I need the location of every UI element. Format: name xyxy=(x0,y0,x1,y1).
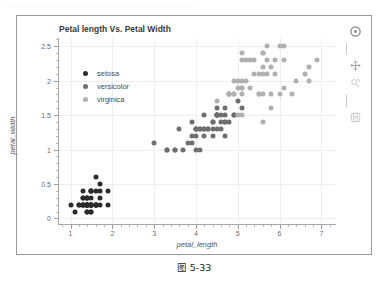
gridline-vertical xyxy=(238,38,239,224)
y-tick-minor xyxy=(56,60,58,61)
y-tick-minor xyxy=(56,191,58,192)
toolbar-separator xyxy=(346,95,347,107)
x-tick-minor xyxy=(288,225,289,227)
scatter-point-setosa xyxy=(93,175,98,180)
x-tick-minor xyxy=(229,225,230,227)
gridline-vertical xyxy=(154,38,155,224)
legend-item-virginica[interactable]: virginica xyxy=(83,93,129,106)
y-tick xyxy=(54,115,58,116)
scatter-point-versicolor xyxy=(198,126,203,131)
y-tick-minor xyxy=(56,143,58,144)
x-tick-minor xyxy=(96,225,97,227)
x-tick-minor xyxy=(313,225,314,227)
x-tick-minor xyxy=(171,225,172,227)
scatter-point-versicolor xyxy=(189,120,194,125)
y-tick-minor xyxy=(56,94,58,95)
x-axis-label: petal_length xyxy=(58,240,336,249)
legend-item-setosa[interactable]: setosa xyxy=(83,67,129,80)
bokeh-scatter-plot[interactable]: Petal length Vs. Petal Width 123456700.5… xyxy=(17,16,371,254)
scatter-point-virginica xyxy=(244,78,249,83)
scatter-point-versicolor xyxy=(235,99,240,104)
legend-item-versicolor[interactable]: versicolor xyxy=(83,80,129,93)
x-tick-minor xyxy=(163,225,164,227)
scatter-point-versicolor xyxy=(223,133,228,138)
scatter-point-setosa xyxy=(106,188,111,193)
plot-data-frame[interactable] xyxy=(58,38,336,224)
x-tick-minor xyxy=(271,225,272,227)
scatter-point-setosa xyxy=(97,195,102,200)
scatter-point-versicolor xyxy=(227,120,232,125)
chart-legend: setosaversicolorvirginica xyxy=(83,67,129,106)
x-tick-label: 1 xyxy=(69,230,73,237)
scatter-point-versicolor xyxy=(152,140,157,145)
x-tick-minor xyxy=(305,225,306,227)
scatter-point-versicolor xyxy=(193,133,198,138)
pan-icon[interactable] xyxy=(348,58,362,72)
scatter-point-versicolor xyxy=(210,120,215,125)
gridline-horizontal xyxy=(58,115,336,116)
y-tick-label: 1 xyxy=(17,146,51,153)
scatter-point-virginica xyxy=(281,58,286,63)
scatter-point-setosa xyxy=(85,202,90,207)
scatter-point-versicolor xyxy=(202,133,207,138)
scatter-point-versicolor xyxy=(214,113,219,118)
y-tick-minor xyxy=(56,136,58,137)
x-tick-minor xyxy=(137,225,138,227)
x-tick-minor xyxy=(104,225,105,227)
scatter-point-virginica xyxy=(252,58,257,63)
y-tick-minor xyxy=(56,108,58,109)
x-tick-minor xyxy=(213,225,214,227)
legend-swatch-icon xyxy=(83,97,88,102)
y-tick-minor xyxy=(56,67,58,68)
y-tick-minor xyxy=(56,212,58,213)
page-top-text-strip: …………………………………………………………………… xyxy=(0,0,388,9)
scatter-point-versicolor xyxy=(181,147,186,152)
bokeh-logo-icon[interactable] xyxy=(348,24,362,38)
scatter-point-versicolor xyxy=(219,126,224,131)
scatter-point-virginica xyxy=(227,92,232,97)
y-tick-label: 2 xyxy=(17,77,51,84)
scatter-point-virginica xyxy=(306,64,311,69)
y-tick-label: 2.5 xyxy=(17,43,51,50)
x-tick-minor xyxy=(330,225,331,227)
scatter-point-virginica xyxy=(248,85,253,90)
y-tick xyxy=(54,184,58,185)
box-zoom-icon[interactable] xyxy=(348,76,362,90)
x-tick xyxy=(321,225,322,229)
scatter-point-versicolor xyxy=(206,126,211,131)
scatter-point-versicolor xyxy=(202,113,207,118)
x-tick-minor xyxy=(129,225,130,227)
y-tick-label: 0 xyxy=(17,215,51,222)
y-tick-minor xyxy=(56,205,58,206)
y-tick-minor xyxy=(56,129,58,130)
scatter-point-versicolor xyxy=(173,147,178,152)
scatter-point-virginica xyxy=(269,92,274,97)
x-tick xyxy=(280,225,281,229)
x-tick-minor xyxy=(246,225,247,227)
save-icon[interactable] xyxy=(348,110,362,124)
x-tick-label: 2 xyxy=(110,230,114,237)
bokeh-toolbar[interactable] xyxy=(345,24,365,128)
scatter-point-virginica xyxy=(302,71,307,76)
scatter-point-virginica xyxy=(235,85,240,90)
y-tick-minor xyxy=(56,39,58,40)
figure-caption: 图 5-33 xyxy=(0,260,388,274)
y-tick-minor xyxy=(56,88,58,89)
scatter-point-virginica xyxy=(244,58,249,63)
gridline-vertical xyxy=(71,38,72,224)
scatter-point-virginica xyxy=(277,92,282,97)
x-tick-label: 5 xyxy=(236,230,240,237)
scatter-point-setosa xyxy=(81,188,86,193)
y-tick xyxy=(54,218,58,219)
scatter-point-versicolor xyxy=(198,147,203,152)
x-tick xyxy=(196,225,197,229)
x-tick-minor xyxy=(121,225,122,227)
scatter-point-virginica xyxy=(260,51,265,56)
scatter-point-virginica xyxy=(281,44,286,49)
y-tick xyxy=(54,150,58,151)
y-axis-line xyxy=(58,38,59,224)
scatter-point-virginica xyxy=(256,92,261,97)
x-tick-minor xyxy=(204,225,205,227)
scatter-point-versicolor xyxy=(164,147,169,152)
figure-card: Petal length Vs. Petal Width 123456700.5… xyxy=(16,15,372,255)
